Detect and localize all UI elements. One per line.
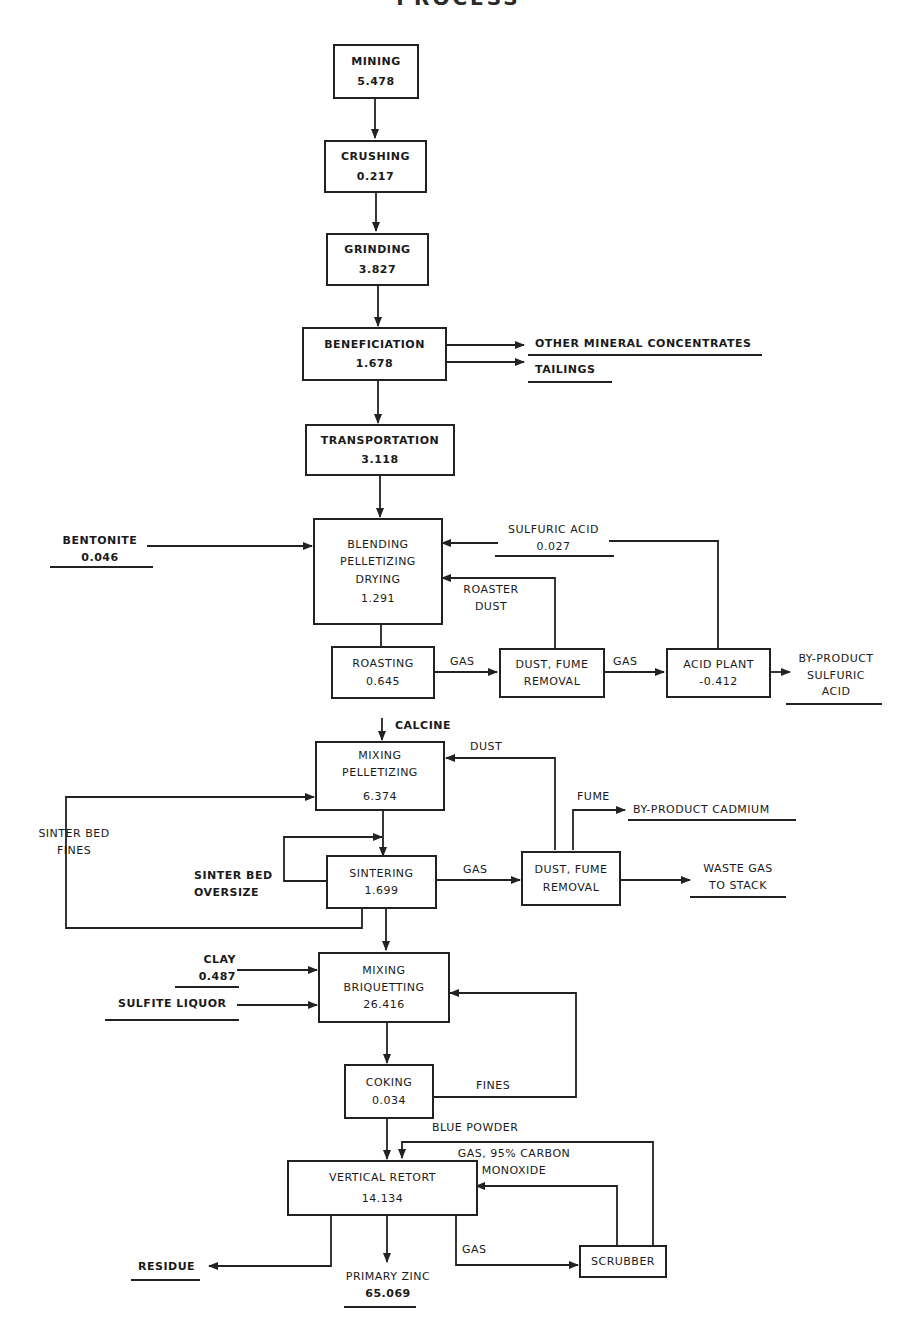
sulfuric-acid-name: SULFURIC ACID	[497, 522, 610, 539]
tailings-label: TAILINGS	[535, 362, 596, 379]
transportation-label: TRANSPORTATION	[321, 432, 439, 449]
crushing-value: 0.217	[357, 168, 394, 185]
sulfuric-acid-label: SULFURIC ACID 0.027	[497, 522, 610, 555]
roaster-dust-line-2: DUST	[456, 599, 526, 616]
waste-gas-label: WASTE GAS TO STACK	[690, 861, 786, 894]
sintering-box: SINTERING 1.699	[326, 855, 437, 909]
roasting-box: ROASTING 0.645	[331, 646, 435, 699]
coking-label: COKING	[366, 1074, 413, 1091]
mining-value: 5.478	[357, 73, 394, 90]
gas-retort-label: GAS	[462, 1242, 487, 1259]
beneficiation-label: BENEFICIATION	[324, 336, 425, 353]
roasting-value: 0.645	[366, 673, 400, 690]
mixing-briquetting-label-1: MIXING	[362, 962, 405, 979]
other-mineral-concentrates-underline	[528, 354, 762, 356]
clay-value: 0.487	[178, 969, 236, 986]
beneficiation-box: BENEFICIATION 1.678	[302, 327, 447, 381]
waste-gas-line-2: TO STACK	[690, 878, 786, 895]
grinding-label: GRINDING	[344, 241, 410, 258]
roaster-dust-label: ROASTER DUST	[456, 582, 526, 615]
mixing-briquetting-value: 26.416	[363, 996, 405, 1013]
clay-label: CLAY 0.487	[178, 952, 236, 985]
gas-co-line-2: MONOXIDE	[444, 1163, 584, 1180]
byproduct-sulfuric-underline	[786, 703, 882, 705]
mixing-briquetting-label-2: BRIQUETTING	[344, 979, 425, 996]
blending-box: BLENDING PELLETIZING DRYING 1.291	[313, 518, 443, 625]
waste-gas-line-1: WASTE GAS	[690, 861, 786, 878]
blending-label-1: BLENDING	[347, 536, 408, 553]
byproduct-sulfuric-acid-label: BY-PRODUCT SULFURIC ACID	[788, 651, 884, 701]
blue-powder-label: BLUE POWDER	[432, 1120, 518, 1137]
residue-underline	[131, 1279, 200, 1281]
mining-box: MINING 5.478	[333, 44, 419, 99]
gas-co-label: GAS, 95% CARBON MONOXIDE	[444, 1146, 584, 1179]
acid-plant-value: -0.412	[699, 673, 737, 690]
gas-sintering-label: GAS	[463, 862, 488, 879]
mixing-pelletizing-box: MIXING PELLETIZING 6.374	[315, 741, 445, 811]
roasting-label: ROASTING	[352, 655, 413, 672]
dust-fume-removal-box-2: DUST, FUME REMOVAL	[521, 851, 621, 906]
other-mineral-concentrates-label: OTHER MINERAL CONCENTRATES	[535, 336, 751, 353]
beneficiation-value: 1.678	[356, 355, 393, 372]
vertical-retort-label: VERTICAL RETORT	[329, 1169, 436, 1186]
acid-plant-label: ACID PLANT	[683, 656, 754, 673]
gas-co-line-1: GAS, 95% CARBON	[444, 1146, 584, 1163]
grinding-box: GRINDING 3.827	[326, 233, 429, 286]
scrubber-box: SCRUBBER	[579, 1245, 667, 1278]
byproduct-sulfuric-line-2: SULFURIC	[788, 668, 884, 685]
sinter-bed-oversize-line-1: SINTER BED	[194, 868, 273, 885]
dust-fume-1-label-1: DUST, FUME	[515, 656, 588, 673]
fume-label: FUME	[577, 789, 610, 806]
mining-label: MINING	[351, 53, 401, 70]
grinding-value: 3.827	[359, 261, 396, 278]
coking-value: 0.034	[372, 1092, 406, 1109]
dust-label: DUST	[470, 739, 502, 756]
gas-acid-label: GAS	[613, 654, 638, 671]
tailings-underline	[528, 381, 612, 383]
dust-fume-2-label-1: DUST, FUME	[534, 861, 607, 878]
vertical-retort-value: 14.134	[362, 1190, 404, 1207]
clay-underline	[175, 986, 239, 988]
calcine-label: CALCINE	[395, 718, 451, 735]
transportation-value: 3.118	[361, 451, 398, 468]
gas-roasting-label: GAS	[450, 654, 475, 671]
crushing-label: CRUSHING	[341, 148, 410, 165]
sintering-label: SINTERING	[349, 865, 413, 882]
bentonite-value: 0.046	[60, 550, 140, 567]
mixing-pelletizing-label-1: MIXING	[358, 747, 401, 764]
blending-label-2: PELLETIZING	[340, 553, 416, 570]
crushing-box: CRUSHING 0.217	[324, 140, 427, 193]
sintering-value: 1.699	[365, 882, 399, 899]
transportation-box: TRANSPORTATION 3.118	[305, 424, 455, 476]
acid-plant-box: ACID PLANT -0.412	[666, 648, 771, 698]
primary-zinc-label: PRIMARY ZINC 65.069	[333, 1269, 443, 1302]
mixing-briquetting-box: MIXING BRIQUETTING 26.416	[318, 952, 450, 1023]
byproduct-sulfuric-line-1: BY-PRODUCT	[788, 651, 884, 668]
blending-label-3: DRYING	[355, 571, 400, 588]
byproduct-sulfuric-line-3: ACID	[788, 684, 884, 701]
sulfite-liquor-label: SULFITE LIQUOR	[118, 996, 227, 1013]
sulfite-liquor-underline	[105, 1019, 239, 1021]
bentonite-underline	[50, 566, 153, 568]
sinter-bed-fines-line-1: SINTER BED	[26, 826, 122, 843]
coking-box: COKING 0.034	[344, 1064, 434, 1119]
scrubber-label: SCRUBBER	[591, 1253, 655, 1270]
bentonite-label: BENTONITE 0.046	[60, 533, 140, 566]
dust-fume-removal-box-1: DUST, FUME REMOVAL	[499, 648, 605, 698]
clay-name: CLAY	[178, 952, 236, 969]
primary-zinc-value: 65.069	[333, 1286, 443, 1303]
waste-gas-underline	[690, 896, 786, 898]
residue-label: RESIDUE	[138, 1259, 195, 1276]
sinter-bed-oversize-line-2: OVERSIZE	[194, 885, 273, 902]
sinter-bed-fines-label: SINTER BED FINES	[26, 826, 122, 859]
sulfuric-acid-value: 0.027	[497, 539, 610, 556]
fines-label: FINES	[476, 1078, 510, 1095]
mixing-pelletizing-label-2: PELLETIZING	[342, 764, 418, 781]
dust-fume-1-label-2: REMOVAL	[524, 673, 581, 690]
bentonite-name: BENTONITE	[60, 533, 140, 550]
sulfuric-acid-underline	[495, 555, 614, 557]
primary-zinc-name: PRIMARY ZINC	[333, 1269, 443, 1286]
byproduct-cadmium-underline	[628, 819, 796, 821]
sinter-bed-fines-line-2: FINES	[26, 843, 122, 860]
blending-value: 1.291	[361, 590, 395, 607]
